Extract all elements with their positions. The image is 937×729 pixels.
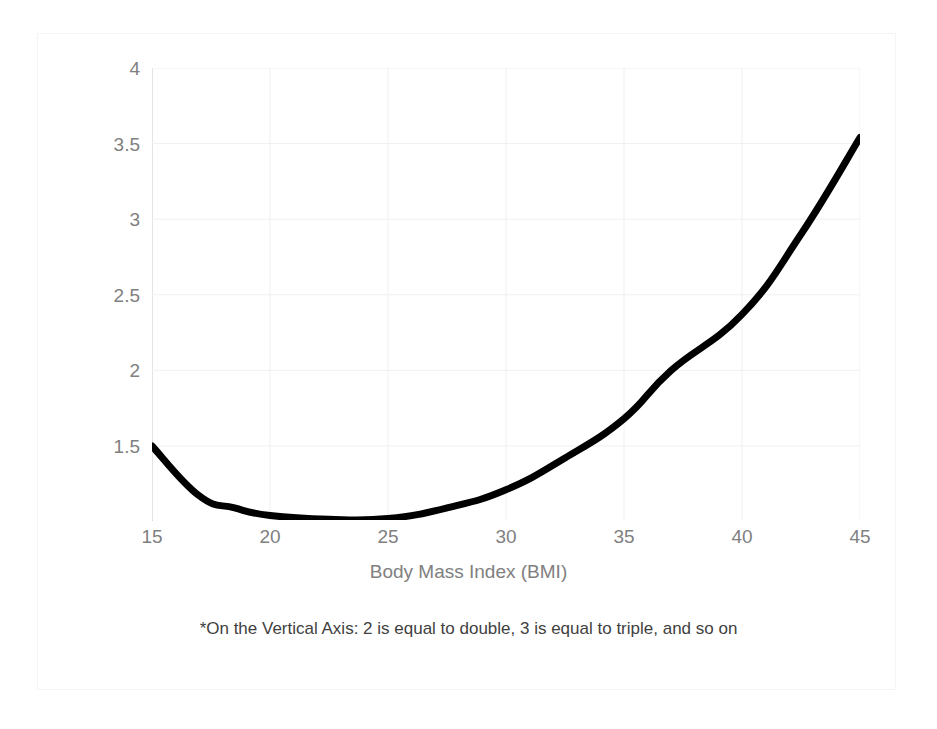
plot-area bbox=[152, 68, 860, 520]
chart-footnote: *On the Vertical Axis: 2 is equal to dou… bbox=[0, 619, 937, 639]
y-axis-tick-label: 2.5 bbox=[94, 285, 140, 304]
line-chart-svg bbox=[152, 68, 860, 520]
x-axis-tick-label: 25 bbox=[377, 527, 398, 546]
x-axis-tick-label: 20 bbox=[259, 527, 280, 546]
x-axis-tick-label: 40 bbox=[731, 527, 752, 546]
y-axis-tick-label: 4 bbox=[94, 59, 140, 78]
y-axis-tick-label: 1.5 bbox=[94, 436, 140, 455]
y-axis-tick-label: 2 bbox=[94, 361, 140, 380]
x-axis-tick-label: 15 bbox=[141, 527, 162, 546]
gridlines bbox=[152, 68, 860, 520]
x-axis-tick-label: 45 bbox=[849, 527, 870, 546]
y-axis-tick-label: 3.5 bbox=[94, 134, 140, 153]
figure-root: *Probability of Death 1.522.533.54 15202… bbox=[0, 0, 937, 729]
x-axis-title: Body Mass Index (BMI) bbox=[0, 561, 937, 583]
y-axis-tick-label: 3 bbox=[94, 210, 140, 229]
x-axis-tick-label: 30 bbox=[495, 527, 516, 546]
x-axis-tick-label: 35 bbox=[613, 527, 634, 546]
